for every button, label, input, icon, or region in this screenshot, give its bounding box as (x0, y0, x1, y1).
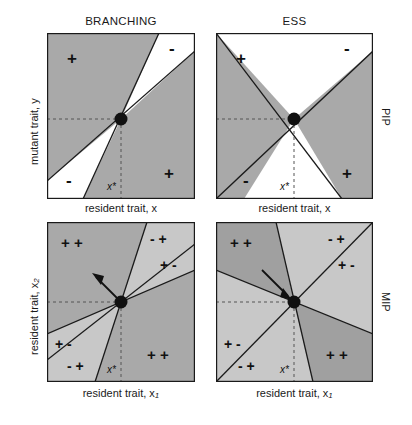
sign-lower-right: + + (147, 346, 169, 363)
sign-lower-right: + (164, 164, 174, 184)
sign-upper-right: - (344, 39, 350, 59)
singular-point-dot (115, 296, 128, 309)
column-title-branching: BRANCHING (47, 15, 195, 27)
sign-upper-right-outer: - + (328, 231, 345, 247)
sign-upper-right-inner: + - (160, 257, 177, 273)
axis-label-resident-trait-x-left: resident trait, x (47, 202, 195, 214)
axis-label-resident-trait-x1-left-subscript: 1 (155, 391, 159, 400)
singular-point-label: x* (107, 364, 116, 375)
panel-mip-ess: + + - + + - + - - + + + x* (216, 222, 373, 382)
sign-upper-left: + (236, 49, 246, 69)
axis-label-resident-trait-x2-subscript: 2 (32, 278, 41, 282)
axis-label-mutant-trait-y: mutant trait, y (28, 98, 40, 165)
sign-upper-right-outer: - + (150, 231, 167, 247)
sign-lower-left-inner: - + (67, 358, 84, 374)
sign-lower-left-outer: + - (224, 336, 241, 352)
sign-upper-left: + + (61, 234, 83, 251)
sign-upper-left: + + (230, 234, 252, 251)
axis-label-resident-trait-x1-right-text: resident trait, x (256, 387, 328, 399)
singular-point-dot (115, 113, 128, 126)
singular-point-label: x* (107, 181, 116, 192)
singular-point-label: x* (280, 181, 289, 192)
panel-mip-branching: + + - + + - + - - + + + x* (47, 222, 195, 382)
axis-label-resident-trait-x1-left: resident trait, x1 (47, 387, 195, 400)
sign-lower-left: - (243, 171, 249, 191)
singular-point-dot (288, 113, 301, 126)
axis-label-resident-trait-x2-text: resident trait, x (28, 283, 40, 355)
singular-point-label: x* (280, 364, 289, 375)
sign-upper-left: + (67, 49, 77, 69)
sign-lower-right: + + (326, 346, 348, 363)
singular-point-dot (288, 296, 301, 309)
row-label-pip: PIP (380, 108, 392, 126)
axis-label-resident-trait-x1-left-text: resident trait, x (83, 387, 155, 399)
axis-label-resident-trait-x2: resident trait, x2 (28, 278, 41, 355)
column-title-ess: ESS (216, 15, 373, 27)
figure-root: BRANCHING ESS PIP MIP mutant trait, y re… (0, 0, 412, 425)
sign-lower-left: - (66, 171, 72, 191)
axis-label-resident-trait-x1-right: resident trait, x1 (216, 387, 373, 400)
sign-lower-left-outer: + - (55, 336, 72, 352)
sign-upper-right: - (169, 39, 175, 59)
row-label-mip: MIP (380, 292, 392, 312)
sign-upper-right-inner: + - (338, 257, 355, 273)
panel-pip-ess: + - - + x* (216, 33, 373, 199)
axis-label-mutant-trait-y-text: mutant trait, y (28, 98, 40, 165)
axis-label-resident-trait-x-right: resident trait, x (216, 202, 373, 214)
panel-pip-branching: + - - + x* (47, 33, 195, 199)
axis-label-resident-trait-x1-right-subscript: 1 (328, 391, 332, 400)
sign-lower-left-inner: - + (238, 358, 255, 374)
sign-lower-right: + (342, 164, 352, 184)
